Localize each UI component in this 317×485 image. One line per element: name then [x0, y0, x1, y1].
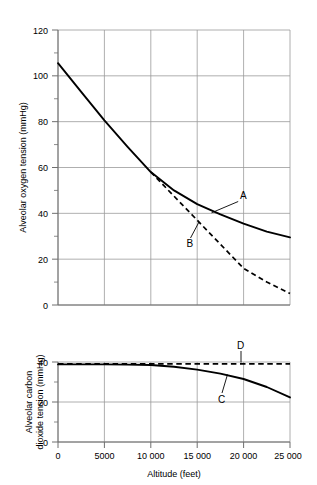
series-curve-a [58, 63, 290, 237]
y-major-ticks-lower [52, 362, 58, 442]
x-axis-title-lower: Altitude (feet) [147, 469, 201, 479]
x-tick-labels-lower: 0 5000 10 000 15 000 20 000 25 000 [55, 451, 301, 461]
x-tick-label-15000: 15 000 [183, 451, 211, 461]
annotation-c: C [218, 375, 228, 405]
y-axis-title-lower-line2: dioxide tension (mmHg) [35, 354, 45, 449]
y-tick-label-upper-120: 120 [33, 26, 48, 36]
y-tick-labels-upper: 120 100 80 60 40 20 0 [33, 26, 48, 311]
y-tick-label-upper-100: 100 [33, 71, 48, 81]
series-curve-c [58, 364, 290, 397]
annotation-a-label: A [240, 190, 247, 201]
chart-svg: 120 100 80 60 40 20 0 Alveolar oxygen te… [0, 0, 317, 485]
y-axis-title-upper: Alveolar oxygen tension (mmHg) [18, 102, 28, 233]
x-tick-label-10000: 10 000 [137, 451, 165, 461]
y-major-ticks-upper [52, 30, 58, 305]
horizontal-gridlines-lower [58, 362, 290, 442]
x-tick-label-0: 0 [55, 451, 60, 461]
x-tick-label-5000: 5000 [94, 451, 114, 461]
y-tick-label-upper-0: 0 [43, 301, 48, 311]
y-tick-label-upper-20: 20 [38, 255, 48, 265]
x-tick-label-20000: 20 000 [230, 451, 258, 461]
x-tick-label-25000: 25 000 [274, 451, 302, 461]
y-tick-label-upper-80: 80 [38, 117, 48, 127]
x-major-ticks-lower [58, 442, 290, 448]
y-tick-label-upper-60: 60 [38, 163, 48, 173]
annotation-b-label: B [187, 238, 194, 249]
figure-container: 120 100 80 60 40 20 0 Alveolar oxygen te… [0, 0, 317, 485]
annotation-d: D [237, 340, 244, 363]
annotation-c-label: C [218, 394, 225, 405]
horizontal-gridlines-upper [58, 30, 290, 305]
annotation-a: A [212, 190, 248, 213]
y-axis-title-lower-line1: Alveolar carbon [24, 371, 34, 434]
annotation-d-label: D [237, 340, 244, 351]
chart-alveolar-carbon-dioxide: 40 20 0 0 5000 10 000 15 000 20 000 25 0… [24, 340, 302, 480]
y-tick-label-upper-40: 40 [38, 209, 48, 219]
chart-alveolar-oxygen: 120 100 80 60 40 20 0 Alveolar oxygen te… [18, 26, 290, 311]
